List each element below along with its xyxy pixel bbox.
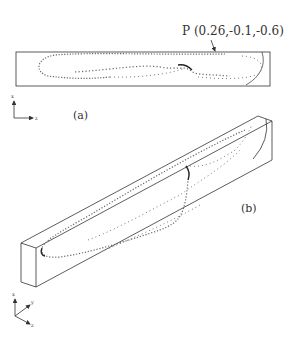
axis-b-vertical-label: x (12, 291, 15, 297)
axis-b-z-label: z (31, 322, 34, 328)
axis-a-vertical-label: x (11, 93, 14, 99)
arrow-to-point-p (211, 40, 215, 51)
axis-triad-a (14, 101, 33, 118)
axis-b-y-label: y (31, 299, 34, 305)
figure-canvas (0, 0, 287, 343)
panel-b-streamlines (41, 124, 252, 257)
panel-b-label: (b) (241, 202, 257, 215)
panel-a-domain (16, 52, 270, 86)
axis-triad-b (15, 299, 30, 324)
point-p-label: P (0.26,-0.1,-0.6) (182, 24, 284, 38)
panel-b-domain (21, 116, 272, 287)
panel-a-label: (a) (73, 109, 88, 122)
axis-a-horizontal-label: z (35, 115, 38, 121)
